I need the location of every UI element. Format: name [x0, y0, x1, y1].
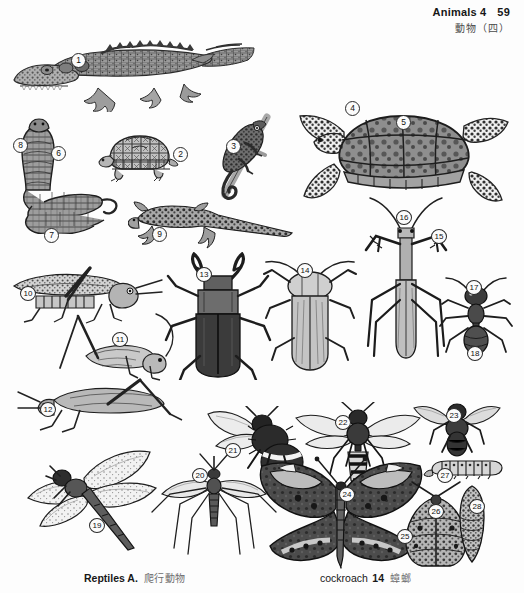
marker-28[interactable]: 28	[469, 499, 485, 514]
footer-right-cn: 蟑螂	[390, 573, 411, 584]
figure-chameleon	[205, 113, 287, 205]
marker-11[interactable]: 11	[112, 332, 128, 347]
figure-stag-beetle	[164, 252, 272, 380]
marker-13[interactable]: 13	[196, 267, 212, 282]
marker-4[interactable]: 4	[345, 101, 360, 116]
marker-23[interactable]: 23	[446, 408, 462, 423]
marker-26[interactable]: 26	[428, 504, 444, 519]
marker-2[interactable]: 2	[173, 147, 188, 162]
figure-lizard	[128, 196, 296, 252]
marker-3[interactable]: 3	[226, 139, 241, 154]
marker-19[interactable]: 19	[89, 518, 105, 533]
figure-chrysalis	[452, 484, 492, 564]
marker-27[interactable]: 27	[437, 468, 453, 483]
marker-8[interactable]: 8	[13, 138, 28, 153]
dictionary-page: Animals 459 動物（四）	[0, 0, 524, 593]
marker-9[interactable]: 9	[152, 227, 167, 242]
page-footer: Reptiles A.爬行動物 cockroach 14蟑螂	[0, 568, 524, 584]
marker-24[interactable]: 24	[339, 487, 355, 502]
marker-12[interactable]: 12	[40, 402, 56, 417]
marker-5[interactable]: 5	[396, 115, 411, 130]
marker-22[interactable]: 22	[335, 415, 351, 430]
page-number: 59	[497, 6, 510, 18]
header-title-en: Animals 459	[433, 6, 510, 18]
footer-left-cn: 爬行動物	[144, 573, 186, 584]
marker-25[interactable]: 25	[397, 529, 413, 544]
marker-15[interactable]: 15	[431, 229, 447, 244]
marker-6[interactable]: 6	[51, 146, 66, 161]
marker-10[interactable]: 10	[20, 286, 36, 301]
figure-crocodile	[6, 26, 256, 112]
footer-entry-reptiles: Reptiles A.爬行動物	[84, 568, 186, 586]
marker-17[interactable]: 17	[466, 280, 482, 295]
figure-caterpillar	[422, 456, 510, 480]
marker-20[interactable]: 20	[192, 468, 208, 483]
marker-7[interactable]: 7	[44, 228, 59, 243]
footer-right-number: 14	[372, 572, 384, 584]
marker-18[interactable]: 18	[467, 346, 483, 361]
illustration-plate: 1 2 3 4 5 6 7 8 9 10 11 12 13 14 15 16 1…	[0, 18, 524, 563]
figure-cobra	[6, 116, 126, 234]
footer-right-en: cockroach	[320, 572, 368, 584]
marker-16[interactable]: 16	[396, 210, 412, 225]
marker-21[interactable]: 21	[225, 443, 241, 458]
footer-entry-cockroach: cockroach 14蟑螂	[320, 568, 411, 586]
footer-left-en: Reptiles A.	[84, 572, 138, 584]
marker-14[interactable]: 14	[297, 263, 313, 278]
header-title-text: Animals 4	[433, 6, 487, 18]
marker-1[interactable]: 1	[71, 53, 86, 68]
